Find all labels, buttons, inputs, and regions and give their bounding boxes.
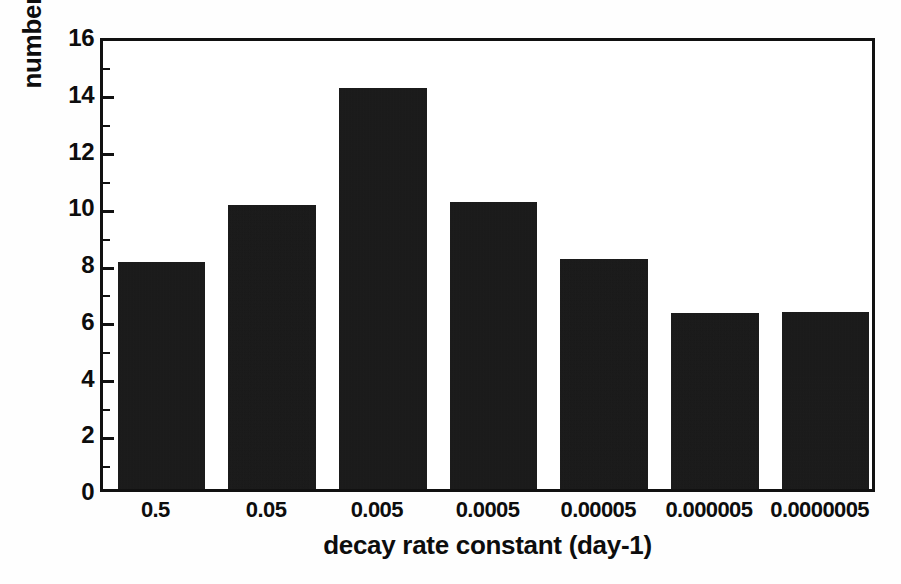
bar bbox=[671, 313, 758, 489]
x-axis-title: decay rate constant (day-1) bbox=[100, 530, 875, 561]
y-tick-label: 14 bbox=[38, 81, 94, 109]
bar bbox=[228, 205, 315, 489]
y-tick-label: 10 bbox=[38, 194, 94, 222]
y-tick-label: 16 bbox=[38, 24, 94, 52]
y-tick-label: 2 bbox=[38, 421, 94, 449]
x-tick-label: 0.0005 bbox=[426, 497, 549, 523]
y-tick-label: 0 bbox=[38, 478, 94, 506]
y-tick-label: 4 bbox=[38, 365, 94, 393]
bar bbox=[339, 88, 426, 490]
x-tick-label: 0.5 bbox=[94, 497, 217, 523]
y-tick-label: 8 bbox=[38, 251, 94, 279]
bar bbox=[560, 259, 647, 489]
x-tick-label: 0.000005 bbox=[648, 497, 771, 523]
bar bbox=[782, 312, 869, 489]
x-tick-label: 0.05 bbox=[205, 497, 328, 523]
plot-area bbox=[100, 38, 875, 492]
x-tick-label: 0.00005 bbox=[537, 497, 660, 523]
bar-chart-figure: number of pools 0246810121416 0.50.050.0… bbox=[0, 0, 901, 584]
y-tick-label: 6 bbox=[38, 308, 94, 336]
y-tick-label: 12 bbox=[38, 138, 94, 166]
x-axis-tick-labels: 0.50.050.0050.00050.000050.0000050.00000… bbox=[100, 497, 875, 531]
y-axis-tick-labels: 0246810121416 bbox=[38, 38, 94, 492]
x-tick-label: 0.005 bbox=[315, 497, 438, 523]
bar-series bbox=[103, 41, 872, 489]
bar bbox=[118, 262, 205, 489]
bar bbox=[450, 202, 537, 489]
x-tick-label: 0.0000005 bbox=[758, 497, 881, 523]
